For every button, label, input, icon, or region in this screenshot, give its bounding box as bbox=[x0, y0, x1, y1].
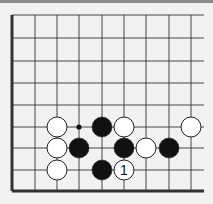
white-stone bbox=[136, 138, 156, 158]
move-number-label: 1 bbox=[120, 162, 128, 178]
go-board: 1 bbox=[0, 0, 213, 204]
black-stone bbox=[92, 160, 112, 180]
white-stone bbox=[47, 117, 67, 137]
black-stone bbox=[92, 117, 112, 137]
white-stone bbox=[47, 138, 67, 158]
white-stone: 1 bbox=[114, 160, 134, 180]
black-stone bbox=[159, 138, 179, 158]
black-stone bbox=[69, 138, 89, 158]
white-stone bbox=[114, 117, 134, 137]
black-stone bbox=[114, 138, 134, 158]
point-marker-dot bbox=[76, 124, 81, 129]
white-stone bbox=[47, 160, 67, 180]
white-stone bbox=[181, 117, 201, 137]
